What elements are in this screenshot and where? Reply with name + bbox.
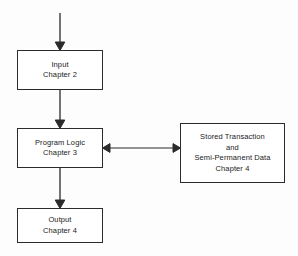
flowchart-canvas: Input Chapter 2 Program Logic Chapter 3 … — [0, 0, 298, 256]
stored-transaction-box-line-3: Semi-Permanent Data — [194, 153, 270, 164]
input-box-line-2: Chapter 2 — [43, 70, 77, 81]
program-logic-box-line-1: Program Logic — [35, 138, 85, 149]
output-box-line-2: Chapter 4 — [43, 226, 77, 237]
stored-transaction-box-line-4: Chapter 4 — [216, 164, 250, 175]
output-box-line-1: Output — [48, 215, 71, 226]
program-logic-box[interactable]: Program Logic Chapter 3 — [17, 128, 103, 168]
input-box[interactable]: Input Chapter 2 — [17, 50, 103, 90]
stored-transaction-box-line-2: and — [226, 143, 239, 154]
program-logic-box-line-2: Chapter 3 — [43, 148, 77, 159]
stored-transaction-box-line-1: Stored Transaction — [200, 132, 265, 143]
output-box[interactable]: Output Chapter 4 — [17, 208, 103, 243]
input-box-line-1: Input — [51, 60, 68, 71]
stored-transaction-box[interactable]: Stored Transaction and Semi-Permanent Da… — [180, 123, 285, 183]
